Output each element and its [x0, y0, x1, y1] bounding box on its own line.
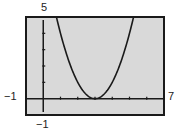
graph-screen	[0, 0, 180, 133]
screen-frame	[26, 17, 164, 115]
